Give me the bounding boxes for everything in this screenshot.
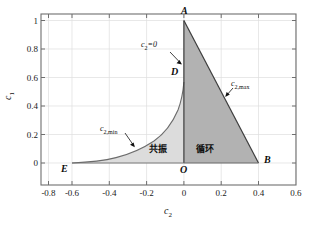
yaxis-title-sub: 1	[8, 92, 16, 96]
point-label-e: E	[61, 163, 68, 174]
chart-figure: -0.8 -0.6 -0.4 -0.2 0 0.2 0.4 0.6 1 0.8 …	[0, 0, 310, 226]
c2-max-label: c2,max	[231, 79, 249, 90]
point-label-d: D	[171, 66, 178, 77]
ytick-label-2: 0.6	[27, 73, 38, 83]
point-label-a: A	[181, 5, 188, 16]
xtick-label-3: -0.2	[139, 188, 153, 198]
region-label-circulation: 循环	[196, 142, 214, 155]
point-label-b: B	[264, 154, 271, 165]
ytick-label-5: 0	[34, 158, 39, 168]
yaxis-title: c1	[2, 92, 16, 100]
xtick-label-7: 0.6	[290, 188, 301, 198]
xtick-label-1: -0.6	[65, 188, 79, 198]
xaxis-title-sub: 2	[168, 211, 172, 219]
xtick-label-4: 0	[182, 188, 187, 198]
region-label-resonance: 共振	[149, 142, 167, 155]
c2-zero-label: c2=0	[141, 40, 157, 51]
yaxis-title-main: c	[2, 96, 13, 100]
xtick-label-0: -0.8	[41, 188, 55, 198]
xtick-label-5: 0.2	[216, 188, 227, 198]
c2-min-label: c2,min	[100, 124, 117, 135]
point-label-o: O	[180, 164, 187, 175]
xaxis-title: c2	[164, 205, 172, 219]
c2-zero-label-tail: =0	[148, 40, 157, 49]
c2-min-label-sub: 2,min	[104, 129, 118, 135]
ytick-label-3: 0.4	[27, 101, 38, 111]
ytick-label-1: 0.8	[27, 44, 38, 54]
xtick-label-6: 0.4	[253, 188, 264, 198]
ytick-label-0: 1	[34, 16, 39, 26]
c2-max-label-sub: 2,max	[235, 84, 250, 90]
xtick-label-2: -0.4	[102, 188, 116, 198]
ytick-label-4: 0.2	[27, 130, 38, 140]
